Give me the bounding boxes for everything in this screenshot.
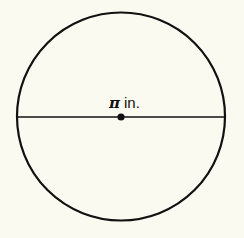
diameter-label: πin. xyxy=(109,94,140,112)
unit-text: in. xyxy=(124,94,140,111)
circle-diagram xyxy=(0,0,244,238)
center-point xyxy=(117,113,124,120)
pi-symbol: π xyxy=(109,94,120,112)
